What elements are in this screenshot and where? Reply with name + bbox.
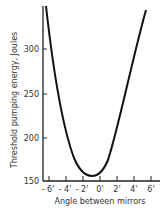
y-axis-title: Threshold pumping energy, Joules [10,32,19,170]
x-axis-title: Angle between mirrors [54,197,145,206]
x-ticks [49,176,151,181]
y-tick-200: 200 [24,134,39,143]
y-tick-300: 300 [24,45,39,54]
chart: 300 250 200 150 - 6' - 4' - 2' 0' 2' 4' … [0,0,166,213]
x-tick-m6: - 6' [42,185,55,194]
x-tick-2: 2' [113,185,120,194]
x-tick-m4: - 4' [59,185,72,194]
x-tick-0: 0' [96,185,103,194]
y-tick-250: 250 [24,90,39,99]
threshold-curve [46,6,146,176]
y-tick-150: 150 [24,177,39,186]
x-tick-6: 6' [147,185,154,194]
x-tick-m2: - 2' [76,185,89,194]
x-tick-4: 4' [130,185,137,194]
